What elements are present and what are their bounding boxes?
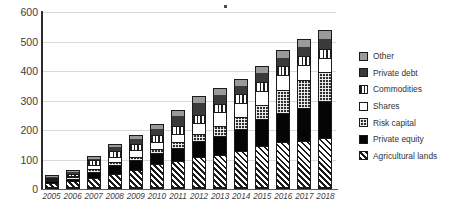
y-tick-label: 200 [2, 125, 38, 135]
bar-segment [193, 116, 205, 124]
private-debt-swatch [359, 68, 368, 77]
bar-segment [256, 83, 268, 92]
bar-2008 [108, 144, 122, 189]
legend-item[interactable]: Commodities [359, 81, 451, 98]
bar-segment [319, 102, 331, 139]
legend-item[interactable]: Private equity [359, 131, 451, 148]
bar-segment [151, 143, 163, 150]
bar-segment [109, 166, 121, 174]
bar-segment [256, 147, 268, 188]
bar-segment [235, 95, 247, 103]
bar-2017 [297, 39, 311, 189]
x-tick-label: 2016 [273, 192, 294, 202]
bar-segment [172, 127, 184, 135]
bar-segment [319, 73, 331, 102]
bar-segment [277, 76, 289, 91]
bar-segment [235, 86, 247, 95]
x-tick-label: 2008 [104, 192, 125, 202]
bar-segment [172, 116, 184, 126]
bar-segment [319, 50, 331, 59]
bar-group [41, 12, 338, 189]
bar-segment [235, 118, 247, 130]
bar-2014 [234, 79, 248, 189]
legend-label: Risk capital [373, 118, 416, 128]
x-tick-label: 2017 [294, 192, 315, 202]
legend-item[interactable]: Other [359, 48, 451, 65]
y-tick-label: 0 [2, 184, 38, 194]
legend-item[interactable]: Shares [359, 98, 451, 115]
y-axis-ticks: 0100200300400500600 [0, 0, 38, 213]
chart-legend: OtherPrivate debtCommoditiesSharesRisk c… [359, 48, 451, 164]
bar-segment [151, 129, 163, 136]
bar-2013 [213, 88, 227, 189]
bar-2015 [255, 66, 269, 189]
x-tick-label: 2014 [231, 192, 252, 202]
bar-segment [298, 40, 310, 47]
bar-2016 [276, 50, 290, 189]
legend-label: Shares [373, 101, 400, 111]
bar-2005 [45, 175, 59, 189]
x-tick-label: 2007 [83, 192, 104, 202]
bar-segment [193, 142, 205, 159]
bar-segment [151, 136, 163, 143]
bar-segment [277, 58, 289, 68]
bar-segment [256, 73, 268, 83]
bar-segment [172, 162, 184, 188]
bar-segment [214, 95, 226, 105]
x-axis-ticks: 2005200620072008200920102011201220132014… [41, 192, 338, 210]
legend-label: Commodities [373, 84, 422, 94]
bar-segment [277, 91, 289, 114]
x-axis-line [41, 189, 338, 190]
bar-segment [151, 154, 163, 165]
y-tick-label: 400 [2, 66, 38, 76]
bar-segment [298, 66, 310, 81]
bar-segment [130, 161, 142, 171]
x-tick-label: 2015 [252, 192, 273, 202]
artifact-dot [224, 5, 227, 8]
bar-2012 [192, 96, 206, 189]
bar-segment [151, 165, 163, 188]
bar-segment [46, 184, 58, 188]
legend-item[interactable]: Private debt [359, 65, 451, 82]
risk-capital-swatch [359, 118, 368, 127]
legend-item[interactable]: Agricultural lands [359, 148, 451, 165]
x-tick-label: 2018 [315, 192, 336, 202]
y-tick-label: 100 [2, 155, 38, 165]
x-tick-label: 2010 [146, 192, 167, 202]
bar-segment [214, 156, 226, 188]
bar-segment [214, 105, 226, 113]
bar-segment [172, 149, 184, 162]
x-tick-label: 2013 [210, 192, 231, 202]
bar-2010 [150, 124, 164, 189]
bar-segment [298, 109, 310, 142]
legend-label: Agricultural lands [373, 151, 437, 161]
bar-segment [172, 135, 184, 143]
bar-segment [130, 171, 142, 188]
bar-segment [214, 127, 226, 137]
legend-item[interactable]: Risk capital [359, 114, 451, 131]
bar-segment [256, 120, 268, 147]
bar-segment [109, 175, 121, 189]
private-equity-swatch [359, 135, 368, 144]
bar-segment [319, 139, 331, 188]
bar-segment [88, 179, 100, 188]
x-tick-label: 2012 [189, 192, 210, 202]
other-swatch [359, 52, 368, 61]
agricultural-lands-swatch [359, 151, 368, 160]
bar-2007 [87, 156, 101, 189]
bar-segment [67, 182, 79, 188]
x-tick-label: 2006 [62, 192, 83, 202]
bar-segment [193, 124, 205, 135]
bar-segment [298, 142, 310, 188]
bar-segment [277, 143, 289, 188]
bar-segment [319, 59, 331, 73]
bar-segment [298, 81, 310, 109]
bar-segment [298, 57, 310, 65]
bar-segment [298, 47, 310, 57]
chart-container: 0100200300400500600 20052006200720082009… [0, 0, 451, 213]
bar-segment [235, 130, 247, 152]
bar-segment [214, 113, 226, 127]
bar-segment [277, 67, 289, 76]
bar-segment [235, 152, 247, 188]
bar-segment [319, 31, 331, 39]
